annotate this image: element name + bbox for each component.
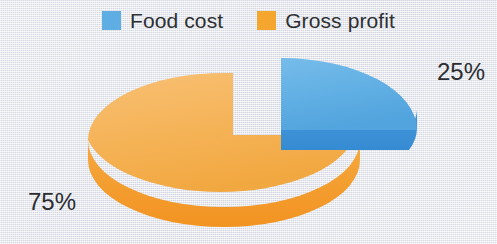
legend-label-food-cost: Food cost: [130, 10, 223, 31]
data-label-food-cost: 25%: [437, 60, 485, 84]
legend-label-gross-profit: Gross profit: [285, 10, 395, 31]
data-label-gross-profit: 75%: [28, 190, 76, 214]
pie-chart-figure: Food cost Gross profit: [0, 0, 497, 244]
legend-item-food-cost[interactable]: Food cost: [102, 10, 223, 31]
legend-item-gross-profit[interactable]: Gross profit: [257, 10, 395, 31]
legend-swatch-gross-profit: [257, 11, 276, 30]
pie-slice-food-cost-top: [281, 58, 417, 130]
chart-legend: Food cost Gross profit: [0, 10, 497, 31]
pie-slice-food-cost[interactable]: [281, 58, 417, 150]
legend-swatch-food-cost: [102, 11, 121, 30]
